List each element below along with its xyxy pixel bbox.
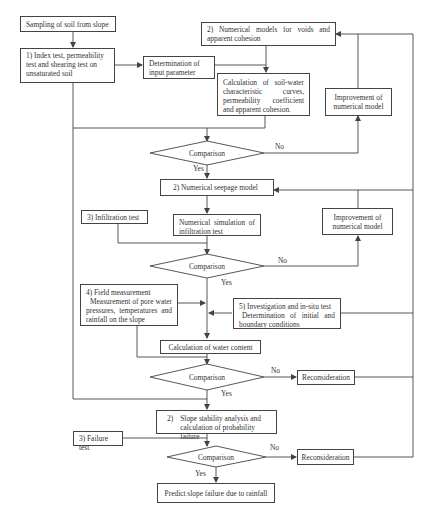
decision-comparison-1: Comparison xyxy=(170,149,244,158)
node-numerical-simulation: Numerical simulation of infiltration tes… xyxy=(173,214,261,236)
decision-comparison-4-text: Comparison xyxy=(198,453,234,462)
node-slope-stability-line2: calculation of probability failure xyxy=(180,423,271,441)
node-field-measurement-title: 4) Field measurement xyxy=(86,288,172,297)
node-predict: Predict slope failure due to rainfall xyxy=(157,483,275,503)
node-investigation-title: 5) Investigation and in-situ test xyxy=(239,302,335,311)
node-infiltration-test: 3) Infiltration test xyxy=(81,210,148,224)
node-investigation-body: Determination of initial and boundary co… xyxy=(239,311,335,329)
node-improvement-1: Improvement of numerical model xyxy=(325,88,392,116)
node-calc-swcc-text: Calculation of soil-water characteristic… xyxy=(223,78,304,114)
node-reconsideration-2-text: Reconsideration xyxy=(301,453,349,462)
node-numerical-seepage: 2) Numerical seepage model xyxy=(160,179,274,196)
node-investigation: 5) Investigation and in-situ test Determ… xyxy=(233,298,341,329)
node-determination-input: Determination of input parameter xyxy=(143,56,215,79)
edge-label-no-1: No xyxy=(275,142,284,151)
node-failure-test: 3) Failure test xyxy=(73,431,123,446)
edge-label-no-3: No xyxy=(271,366,280,375)
node-determination-input-text: Determination of input parameter xyxy=(149,59,200,77)
decision-comparison-3-text: Comparison xyxy=(189,373,225,382)
decision-comparison-2-text: Comparison xyxy=(189,262,225,271)
edge-label-yes-1: Yes xyxy=(193,164,204,173)
node-calc-water-content-text: Calculation of water content xyxy=(169,343,253,352)
edge-label-yes-4: Yes xyxy=(195,469,206,478)
node-numerical-simulation-text: Numerical simulation of infiltration tes… xyxy=(179,218,255,236)
node-field-measurement-body: Measurement of pore water pressures, tem… xyxy=(86,297,172,324)
node-calc-water-content: Calculation of water content xyxy=(160,340,261,354)
node-field-measurement: 4) Field measurement Measurement of pore… xyxy=(80,284,178,326)
decision-comparison-2: Comparison xyxy=(170,262,244,271)
node-calc-swcc: Calculation of soil-water characteristic… xyxy=(217,73,310,116)
node-predict-text: Predict slope failure due to rainfall xyxy=(165,489,268,498)
node-improvement-2-text: Improvement of numerical model xyxy=(328,213,387,231)
node-sampling: Sampling of soil from slope xyxy=(20,16,116,32)
node-numerical-seepage-text: 2) Numerical seepage model xyxy=(173,183,258,192)
edge-label-yes-3: Yes xyxy=(221,389,232,398)
edge-label-no-4: No xyxy=(270,443,279,452)
node-improvement-2: Improvement of numerical model xyxy=(322,208,393,235)
edge-label-no-2: No xyxy=(278,256,287,265)
node-index-test-text: 1) Index test, permeability test and she… xyxy=(26,51,104,78)
node-index-test: 1) Index test, permeability test and she… xyxy=(20,48,115,83)
decision-comparison-4: Comparison xyxy=(179,453,253,462)
decision-comparison-3: Comparison xyxy=(170,373,244,382)
node-reconsideration-1: Reconsideration xyxy=(297,370,355,385)
node-reconsideration-1-text: Reconsideration xyxy=(302,373,350,382)
node-infiltration-test-text: 3) Infiltration test xyxy=(87,213,139,222)
decision-comparison-1-text: Comparison xyxy=(189,149,225,158)
node-sampling-text: Sampling of soil from slope xyxy=(26,20,109,29)
node-numerical-models-voids: 2) Numerical models for voids and appare… xyxy=(201,22,336,46)
node-slope-stability: 2) Slope stability analysis and calculat… xyxy=(156,410,277,434)
node-numerical-models-voids-text: 2) Numerical models for voids and appare… xyxy=(207,25,330,43)
node-reconsideration-2: Reconsideration xyxy=(297,449,354,465)
edge-label-yes-2: Yes xyxy=(221,278,232,287)
node-improvement-1-text: Improvement of numerical model xyxy=(331,93,386,111)
node-slope-stability-line1: Slope stability analysis and xyxy=(180,414,271,423)
node-slope-stability-num: 2) xyxy=(167,414,180,441)
